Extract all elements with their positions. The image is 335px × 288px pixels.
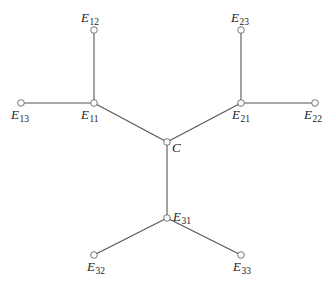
node-e32 — [91, 252, 98, 259]
node-label-subscript: 32 — [95, 266, 105, 276]
node-label-e12: E12 — [80, 10, 99, 27]
node-c — [164, 139, 171, 146]
node-e33 — [238, 252, 245, 259]
node-label-subscript: 12 — [89, 17, 99, 27]
node-label-e33: E33 — [232, 259, 251, 276]
node-label-subscript: 31 — [181, 216, 191, 226]
node-label-e31: E31 — [172, 209, 191, 226]
node-label-e13: E13 — [10, 107, 29, 124]
node-e23 — [238, 27, 245, 34]
edge-e31-e32 — [94, 218, 167, 255]
node-label-e11: E11 — [80, 107, 99, 124]
node-e22 — [312, 100, 319, 107]
node-e21 — [238, 100, 245, 107]
node-label-subscript: 23 — [239, 17, 249, 27]
node-e12 — [91, 27, 98, 34]
node-e11 — [91, 100, 98, 107]
node-label-subscript: 22 — [312, 114, 322, 124]
node-label-subscript: 21 — [240, 114, 250, 124]
nodes-group — [18, 27, 319, 259]
node-label-subscript: 33 — [241, 266, 251, 276]
tree-diagram: CE11E12E13E21E22E23E31E32E33 — [0, 0, 335, 288]
node-label-subscript: 11 — [89, 114, 98, 124]
edge-c-e11 — [94, 103, 167, 142]
node-label-e22: E22 — [303, 107, 322, 124]
node-label-c: C — [172, 140, 181, 155]
node-label-e23: E23 — [230, 10, 249, 27]
node-label-e21: E21 — [231, 107, 250, 124]
node-label-e32: E32 — [86, 259, 105, 276]
edge-c-e21 — [167, 103, 241, 142]
node-e13 — [18, 100, 25, 107]
node-label-subscript: 13 — [19, 114, 29, 124]
node-e31 — [164, 215, 171, 222]
